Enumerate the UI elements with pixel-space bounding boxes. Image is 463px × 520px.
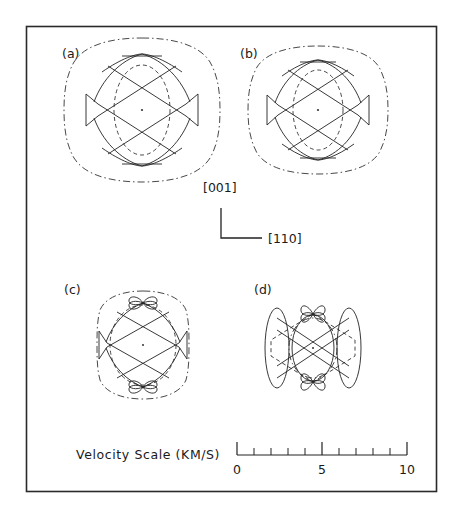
panel-d-lobe-left — [265, 308, 289, 388]
panel-c-petal-tr — [143, 297, 157, 305]
panel-c-origin-dot — [142, 344, 144, 346]
axis-corner-marker — [221, 208, 262, 238]
panel-d-lobe-right — [337, 308, 361, 388]
panel-c-petal-tl — [129, 297, 143, 305]
panel-c-cusp-left — [99, 331, 107, 359]
panel-d: (d) — [254, 282, 361, 390]
panel-d-origin-dot — [312, 347, 314, 349]
panel-d-label: (d) — [254, 282, 272, 297]
panel-c-arc-se — [143, 348, 180, 387]
panel-d-petal-b-br — [313, 381, 325, 391]
panel-b: (b) — [240, 46, 388, 174]
panel-b-origin-dot — [317, 109, 319, 111]
panel-a-label: (a) — [62, 46, 79, 61]
panel-a-arc-se — [142, 118, 190, 166]
panel-a-arc-nw — [94, 54, 142, 102]
panel-b-chord-2 — [278, 70, 348, 115]
velocity-tick-label-5: 5 — [318, 462, 326, 477]
panel-c-petal-bl — [129, 301, 143, 309]
panel-a-arc-sw — [94, 118, 142, 166]
panel-c-petal-b-bl — [129, 385, 143, 393]
panel-b-label: (b) — [240, 46, 258, 61]
panel-c-chord-2 — [107, 312, 169, 347]
velocity-tick-label-0: 0 — [233, 462, 241, 477]
panel-c-chord-3 — [117, 343, 179, 378]
panel-a-chord-2 — [98, 66, 176, 116]
panel-b-chord-3 — [288, 105, 358, 150]
panel-a-lobe-top — [102, 54, 182, 72]
panel-d-petal-b-bl — [301, 381, 313, 391]
panel-c-cusp-right — [179, 331, 187, 359]
velocity-scale: Velocity Scale (KM/S) 0 5 10 — [76, 442, 415, 477]
panel-d-petal-br — [313, 313, 325, 323]
panel-b-chord-4 — [278, 105, 348, 150]
panel-c: (c) — [64, 282, 189, 399]
velocity-scale-title: Velocity Scale (KM/S) — [76, 447, 220, 462]
velocity-tick-label-10: 10 — [399, 462, 415, 477]
panel-a-chord-4 — [98, 104, 176, 154]
phonon-focusing-figure: (a) — [0, 0, 463, 520]
panel-a-cusp-left — [86, 94, 98, 126]
panel-c-arc-ne — [143, 303, 180, 342]
panel-c-chord-1 — [117, 312, 179, 347]
panel-c-rosette-bottom — [129, 381, 157, 393]
panel-a-cusp-right — [186, 94, 198, 126]
axis-label-vertical: [001] — [203, 180, 237, 195]
panel-a-lobe-bottom — [102, 148, 182, 166]
panel-c-arc-sw — [106, 348, 143, 387]
panel-c-petal-b-tl — [129, 381, 143, 389]
orientation-indicator: [001] [110] — [203, 180, 302, 246]
panel-c-arc-nw — [106, 303, 143, 342]
panel-c-label: (c) — [64, 282, 81, 297]
panel-c-petal-b-br — [143, 385, 157, 393]
panel-a-chord-3 — [108, 104, 186, 154]
panel-a-chord-1 — [108, 66, 186, 116]
panel-a-arc-ne — [142, 54, 190, 102]
panel-b-chord-1 — [288, 70, 358, 115]
figure-container: (a) — [0, 0, 463, 520]
panel-a-origin-dot — [141, 109, 143, 111]
axis-label-horizontal: [110] — [268, 231, 302, 246]
panel-a: (a) — [62, 38, 220, 182]
panel-c-chord-4 — [107, 343, 169, 378]
